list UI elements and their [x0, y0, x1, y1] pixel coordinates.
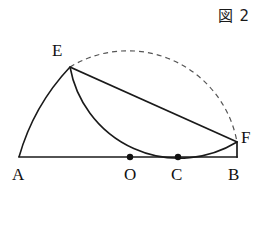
point-label-c: C [171, 166, 182, 183]
segment-group [19, 67, 237, 157]
chord-EF [70, 67, 237, 142]
semicircle-AB-dashed [70, 51, 237, 142]
figure-container: 図 2 A O C B E F [0, 0, 260, 226]
point-marker-o [127, 154, 133, 160]
arc-AE-centered-B [19, 67, 70, 157]
point-label-b: B [228, 166, 239, 183]
point-marker-c [175, 154, 181, 160]
arc-EF-through-C-centered-O [70, 67, 237, 158]
point-label-o: O [124, 166, 136, 183]
arc-group [19, 51, 237, 158]
point-label-a: A [12, 166, 24, 183]
geometry-diagram [0, 0, 260, 226]
point-label-f: F [241, 129, 250, 146]
point-label-e: E [52, 42, 62, 59]
